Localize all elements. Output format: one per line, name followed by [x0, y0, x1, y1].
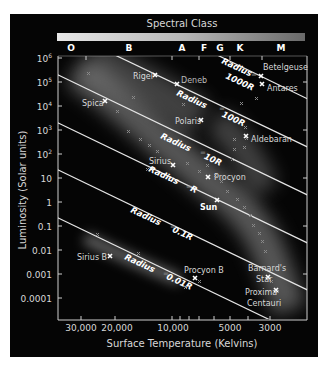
star-label-aldebaran: Aldebaran	[251, 135, 292, 144]
x-axis-title: Surface Temperature (Kelvins)	[107, 338, 258, 349]
svg-text:=: =	[186, 183, 192, 191]
star-label-proxima-1: Proxima	[245, 288, 277, 297]
star-label-procyon-b: Procyon B	[184, 266, 224, 275]
svg-text:=: =	[251, 71, 257, 79]
hr-diagram: Spectral Class O B A F G K M	[0, 0, 324, 372]
svg-text:5000: 5000	[219, 323, 242, 333]
svg-text:10: 10	[41, 174, 53, 184]
svg-text:=: =	[170, 223, 176, 231]
star-label-procyon: Procyon	[214, 173, 246, 182]
spectral-class-letters: O B A F G K M	[67, 43, 285, 53]
class-k: K	[237, 43, 245, 53]
class-a: A	[179, 43, 186, 53]
star-label-betelgeuse: Betelgeuse	[263, 63, 308, 72]
star-marker-procyon-b	[193, 276, 197, 280]
star-label-barnards-2: Star	[256, 275, 273, 284]
star-label-polaris: Polaris	[175, 117, 201, 126]
y-axis-title: Luminosity (Solar units)	[17, 131, 28, 250]
svg-text:=: =	[219, 105, 225, 113]
radius-label-0.1r: Radius 0.1R	[129, 205, 195, 243]
star-label-proxima-2: Centauri	[247, 299, 281, 308]
svg-text:=: =	[163, 270, 169, 278]
svg-text:20,000: 20,000	[101, 323, 133, 333]
star-label-sirius-b: Sirius B	[77, 253, 107, 262]
svg-text:0.001: 0.001	[26, 270, 52, 280]
spectral-gradient-bar	[57, 33, 305, 41]
svg-text:1: 1	[46, 198, 52, 208]
svg-text:30,000: 30,000	[65, 323, 97, 333]
class-b: B	[126, 43, 133, 53]
star-label-rigel: Rigel	[133, 72, 153, 81]
star-label-antares: Antares	[267, 84, 298, 93]
spectral-class-title: Spectral Class	[147, 18, 218, 29]
svg-text:3000: 3000	[259, 323, 282, 333]
svg-text:104: 104	[37, 100, 52, 112]
class-f: F	[201, 43, 207, 53]
svg-text:=: =	[200, 149, 206, 157]
star-label-spica: Spica	[82, 99, 104, 108]
class-g: G	[216, 43, 223, 53]
svg-text:Radius: Radius	[129, 205, 163, 228]
svg-text:105: 105	[37, 76, 52, 88]
class-o: O	[67, 43, 75, 53]
svg-text:106: 106	[37, 52, 52, 64]
x-tick-labels: 30,000 20,000 10,000 5000 3000	[65, 323, 281, 333]
svg-text:102: 102	[37, 148, 52, 160]
svg-text:10,000: 10,000	[157, 323, 189, 333]
svg-text:0.0001: 0.0001	[21, 294, 53, 304]
svg-text:103: 103	[37, 124, 52, 136]
svg-text:0.01: 0.01	[32, 246, 52, 256]
class-m: M	[277, 43, 286, 53]
svg-text:0.1: 0.1	[38, 222, 52, 232]
star-label-sun: Sun	[200, 203, 217, 212]
star-label-barnards-1: Barnard's	[248, 264, 286, 273]
star-marker-antares	[260, 82, 264, 86]
svg-text:Radius: Radius	[123, 252, 157, 275]
star-label-sirius: Sirius	[149, 157, 171, 166]
star-label-deneb: Deneb	[181, 76, 207, 85]
